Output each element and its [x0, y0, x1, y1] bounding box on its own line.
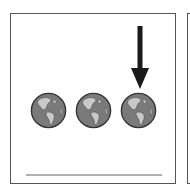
divider-line — [26, 174, 162, 176]
globe-icon[interactable] — [30, 92, 67, 129]
globe-icon[interactable] — [120, 92, 157, 129]
adjacent-panel — [187, 13, 190, 184]
arrow-down-icon — [130, 26, 150, 89]
globe-icon[interactable] — [75, 92, 112, 129]
card-panel — [10, 13, 176, 184]
